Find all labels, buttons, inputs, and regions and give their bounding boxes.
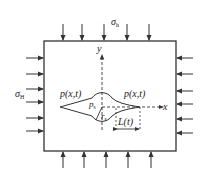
rs-label: rs — [101, 111, 107, 122]
pressure-right-label: p(x,t) — [123, 88, 146, 100]
fracture-diagram: σh σH y x p(x,t) p(x,t) ps rs L(t) — [0, 0, 206, 175]
right-stress-arrows — [177, 58, 193, 133]
x-axis-label: x — [162, 101, 168, 112]
bottom-stress-arrows — [63, 152, 151, 168]
top-stress-arrows — [63, 24, 149, 40]
crack-length-label: L(t) — [117, 116, 134, 128]
sigma-h-label: σh — [111, 16, 119, 28]
y-axis-label: y — [96, 43, 102, 54]
left-stress-arrows — [26, 58, 43, 131]
ps-label: ps — [88, 99, 96, 110]
sigma-H-label: σH — [15, 88, 25, 100]
pressure-left-label: p(x,t) — [59, 88, 82, 100]
